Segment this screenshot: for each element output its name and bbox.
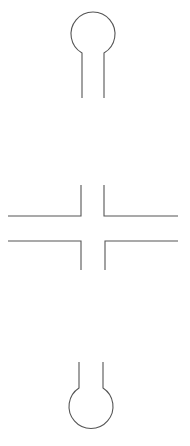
top-hairpin-loop xyxy=(71,12,115,98)
top-stem-right-lower xyxy=(104,185,178,216)
bottom-hairpin-loop xyxy=(69,362,113,428)
bottom-arm-right xyxy=(105,241,178,270)
cruciform-diagram xyxy=(0,0,190,446)
bottom-arm-left xyxy=(8,241,81,270)
top-stem-left-lower xyxy=(8,185,81,216)
